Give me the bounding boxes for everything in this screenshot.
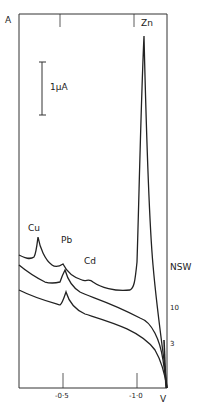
scale-bar-label: 1µA	[50, 83, 68, 92]
curve-10	[19, 265, 167, 388]
curve-3	[19, 290, 167, 388]
peak-label-zn: Zn	[141, 19, 153, 28]
series-label-nsw: NSW	[170, 263, 191, 272]
series-label-10: 10	[170, 305, 179, 312]
series-label-3: 3	[170, 341, 174, 348]
peak-label-cu: Cu	[28, 224, 40, 233]
curve-nsw	[19, 36, 167, 388]
y-axis-label: A	[5, 16, 11, 25]
x-tick-label-1-0: -1·0	[129, 393, 143, 400]
peak-label-cd: Cd	[84, 257, 96, 266]
x-axis-label: V	[160, 395, 166, 404]
peak-label-pb: Pb	[61, 236, 72, 245]
scale-bar	[39, 62, 46, 115]
x-tick-label-0-5: -0·5	[55, 393, 69, 400]
